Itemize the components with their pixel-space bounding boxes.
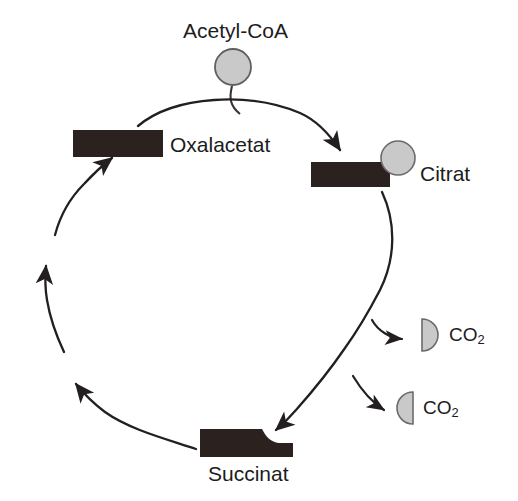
label-oxalacetat: Oxalacetat: [170, 134, 270, 155]
co2-second-subscript: 2: [452, 405, 459, 420]
label-succinat: Succinat: [208, 463, 289, 484]
arrow-to-co2-first: [372, 320, 402, 339]
co2-first-subscript: 2: [478, 332, 485, 347]
diagram-graphics: [0, 0, 518, 501]
cycle-diagram-canvas: Acetyl-CoA Oxalacetat Citrat Succinat CO…: [0, 0, 518, 501]
label-citrat: Citrat: [420, 163, 470, 184]
arrow-succinat-to-oxalacetat-mid: [45, 266, 64, 352]
arrow-succinat-to-oxalacetat-lower: [76, 384, 196, 449]
co2-second-text: CO: [423, 397, 452, 418]
co2-second-half-sphere: [397, 392, 413, 424]
label-co2-first: CO2: [449, 325, 485, 347]
label-co2-second: CO2: [423, 398, 459, 420]
oxalacetat-block: [73, 130, 163, 157]
citrat-carbon-sphere: [381, 141, 415, 175]
co2-first-text: CO: [449, 324, 478, 345]
arrow-to-co2-second: [353, 376, 384, 410]
acetyl-coa-sphere: [215, 49, 251, 85]
arrow-citrat-to-succinat: [276, 192, 392, 430]
label-acetyl-coa: Acetyl-CoA: [183, 20, 288, 41]
citrat-block-overlap: [311, 162, 381, 187]
arrow-succinat-to-oxalacetat-upper: [55, 158, 112, 235]
co2-first-half-sphere: [422, 319, 438, 351]
succinat-block: [200, 429, 293, 457]
